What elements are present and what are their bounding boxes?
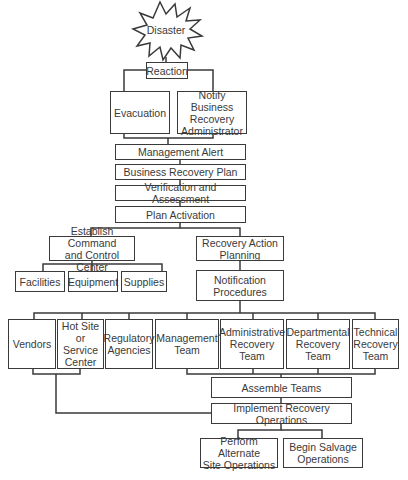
node-assemble-teams: Assemble Teams bbox=[211, 377, 352, 398]
node-alternate-site-operations: Perform Alternate Site Operations bbox=[200, 438, 278, 468]
disaster-label: Disaster bbox=[143, 24, 189, 36]
node-business-recovery-plan: Business Recovery Plan bbox=[115, 164, 246, 180]
node-verification-assessment: Verification and Assessment bbox=[115, 185, 246, 201]
edge-activation-recovery bbox=[180, 228, 240, 236]
edge-teams-merge bbox=[187, 369, 375, 374]
edge-implement-salvage bbox=[281, 430, 322, 438]
node-notify-administrator: Notify Business Recovery Administrator bbox=[177, 91, 247, 134]
node-management-alert: Management Alert bbox=[115, 144, 246, 160]
edge-to-implement bbox=[56, 374, 211, 413]
edge-vendors-hotsite-merge bbox=[33, 369, 80, 374]
node-implement-operations: Implement Recovery Operations bbox=[211, 403, 352, 424]
node-management-team: Management Team bbox=[155, 319, 219, 369]
node-departmental-team: Departmental Recovery Team bbox=[286, 319, 350, 369]
node-recovery-action-planning: Recovery Action Planning bbox=[196, 236, 284, 261]
node-salvage-operations: Begin Salvage Operations bbox=[283, 438, 363, 468]
node-reaction: Reaction bbox=[146, 62, 188, 79]
node-regulatory-agencies: Regulatory Agencies bbox=[105, 319, 153, 369]
node-command-center: Establish Command and Control Center bbox=[49, 236, 135, 261]
node-hot-site: Hot Site or Service Center bbox=[57, 319, 104, 369]
node-administrative-team: Administrative Recovery Team bbox=[220, 319, 284, 369]
node-technical-team: Technical Recovery Team bbox=[352, 319, 399, 369]
edge-reaction-evacuation bbox=[124, 70, 146, 91]
node-plan-activation: Plan Activation bbox=[115, 206, 246, 223]
node-evacuation: Evacuation bbox=[110, 91, 170, 134]
node-supplies: Supplies bbox=[121, 271, 167, 292]
node-equipment: Equipment bbox=[68, 271, 118, 292]
node-facilities: Facilities bbox=[15, 271, 65, 292]
node-vendors: Vendors bbox=[8, 319, 56, 369]
node-notification-procedures: Notification Procedures bbox=[196, 270, 284, 301]
